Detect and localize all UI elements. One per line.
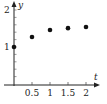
x-tick-label: 2 [83,88,89,98]
scatter-chart: y t 120.511.52 [0,0,107,104]
x-tick-label: 1 [47,88,53,98]
x-axis-arrow-icon [94,83,100,88]
plot-area: y t 120.511.52 [0,0,107,104]
x-tick-label: 0.5 [25,88,40,98]
x-tick-label: 1.5 [61,88,76,98]
y-axis-label: y [17,0,24,10]
data-point [48,28,53,33]
y-tick-label: 1 [4,42,10,52]
x-axis-label: t [94,72,98,82]
data-point [12,45,17,50]
data-point [30,35,35,40]
y-tick-label: 2 [4,5,10,15]
data-point [66,26,71,31]
data-point [84,25,89,30]
y-axis-arrow-icon [12,1,17,7]
